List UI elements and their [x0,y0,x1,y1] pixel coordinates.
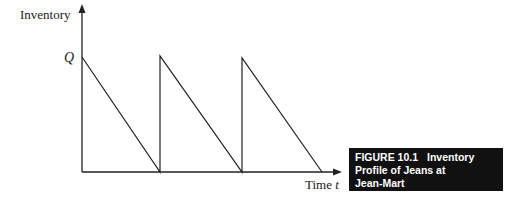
x-axis-label: Time t [305,177,339,192]
caption-line-3: Jean-Mart [355,177,497,190]
caption-line-1-rest: Inventory [427,151,474,163]
q-tick-label: Q [64,50,74,65]
x-axis-label-var: t [335,177,339,192]
caption-line-2: Profile of Jeans at [355,164,497,177]
y-axis-label: Inventory [20,7,71,22]
y-axis-arrow-icon [79,4,86,13]
x-axis-label-prefix: Time [305,177,335,192]
figure-number: FIGURE 10.1 [355,151,418,163]
x-axis-arrow-icon [333,169,342,176]
caption-line-1: FIGURE 10.1Inventory [355,151,497,164]
figure-caption: FIGURE 10.1Inventory Profile of Jeans at… [349,148,503,191]
inventory-series-line [82,56,322,172]
